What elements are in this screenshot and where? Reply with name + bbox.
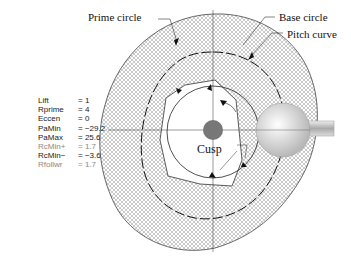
base-circle-label: Base circle <box>279 11 328 23</box>
param-row: RcMin+= 1.7 <box>38 142 113 151</box>
param-row: Lift= 1 <box>38 96 113 105</box>
prime-circle-label: Prime circle <box>88 11 141 23</box>
param-row: Rfollwr= 1.7 <box>38 160 113 169</box>
param-row: PaMin= −29.2 <box>38 124 113 133</box>
param-row: PaMax= 25.6 <box>38 133 113 142</box>
param-row: RcMin−= −3.6 <box>38 151 113 160</box>
param-row: Eccen= 0 <box>38 114 113 123</box>
cam-hub <box>203 120 223 140</box>
cusp-label: Cusp <box>197 142 222 157</box>
parameter-list: Lift= 1 Rprime= 4 Eccen= 0 PaMin= −29.2 … <box>38 96 113 170</box>
param-row: Rprime= 4 <box>38 105 113 114</box>
pitch-curve-label: Pitch curve <box>287 28 337 40</box>
